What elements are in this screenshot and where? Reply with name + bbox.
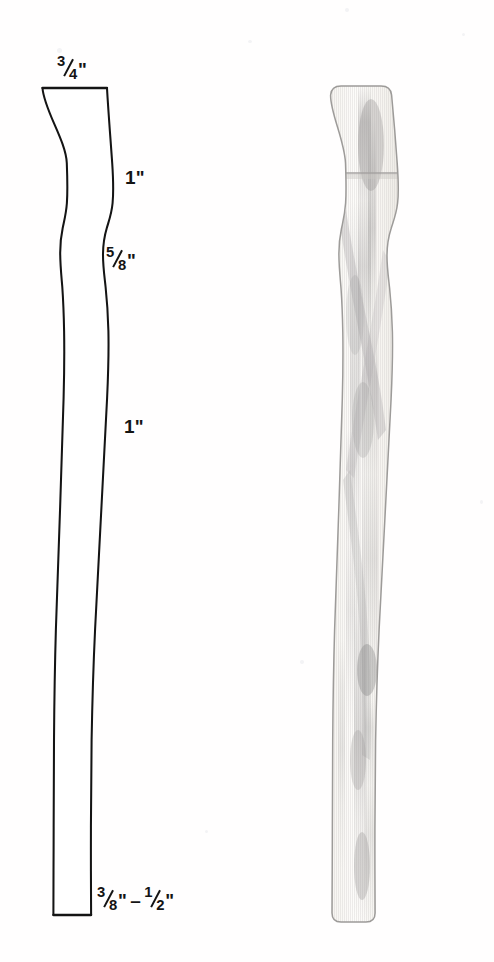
range-dash: – xyxy=(127,890,144,911)
turned-leg-photo-panel xyxy=(250,0,494,962)
leg-profile-drawing-panel: 3 4 " 1" 5 8 " 1" 3 8 "– 1 xyxy=(0,0,250,962)
dimension-label-foot-width: 3 8 "– 1 2 " xyxy=(97,889,174,910)
inch-mark: " xyxy=(136,167,145,188)
post-transition-line xyxy=(310,172,440,174)
inch-mark: " xyxy=(78,59,87,80)
turned-leg-photograph xyxy=(250,0,494,962)
fraction-five-eighths: 5 8 xyxy=(106,249,127,268)
fraction-one-half: 1 2 xyxy=(144,889,165,908)
fraction-three-quarters: 3 4 xyxy=(57,58,78,77)
dimension-label-upper-width: 1" xyxy=(125,168,145,188)
inch-mark: " xyxy=(127,250,136,271)
inch-mark: " xyxy=(135,416,144,437)
figure-root: 3 4 " 1" 5 8 " 1" 3 8 "– 1 xyxy=(0,0,494,962)
fraction-three-eighths: 3 8 xyxy=(97,889,118,908)
dimension-label-waist-width: 5 8 " xyxy=(106,249,136,270)
inch-mark: " xyxy=(165,890,174,911)
dimension-value: 1 xyxy=(125,167,136,188)
dimension-value: 1 xyxy=(124,416,135,437)
leg-profile-outline xyxy=(0,0,250,962)
dimension-label-top-width: 3 4 " xyxy=(57,58,87,79)
inch-mark: " xyxy=(118,890,127,911)
dimension-label-lower-width: 1" xyxy=(124,417,144,437)
